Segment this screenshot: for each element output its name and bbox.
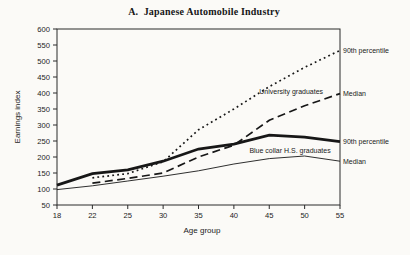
inplot-series-group-label: University graduates <box>259 88 323 96</box>
x-tick-label: 55 <box>336 211 344 220</box>
x-tick-label: 35 <box>194 211 202 220</box>
x-tick-label: 18 <box>53 211 61 220</box>
inplot-series-group-label: Blue collar H.S. graduates <box>249 147 331 155</box>
y-tick-label: 500 <box>37 57 50 66</box>
x-tick-label: 22 <box>88 211 96 220</box>
y-tick-label: 550 <box>37 41 50 50</box>
y-tick-label: 100 <box>37 185 50 194</box>
line-end-label: Median <box>343 158 366 165</box>
earnings-profile-chart: A. Japanese Automobile Industry Earnings… <box>0 0 410 255</box>
y-tick-label: 300 <box>37 121 50 130</box>
x-tick-label: 25 <box>124 211 132 220</box>
y-tick-label: 400 <box>37 89 50 98</box>
plot-area: 5010015020025030035040045050055060018222… <box>37 25 389 220</box>
y-tick-label: 450 <box>37 73 50 82</box>
y-tick-label: 200 <box>37 153 50 162</box>
chart-title: A. Japanese Automobile Industry <box>128 6 280 17</box>
x-tick-label: 30 <box>159 211 167 220</box>
line-end-label: 90th percentile <box>343 138 389 146</box>
x-tick-label: 45 <box>265 211 273 220</box>
y-tick-label: 50 <box>42 201 50 210</box>
series-line-thick <box>57 135 340 185</box>
y-axis-title: Earnings index <box>13 91 22 144</box>
x-tick-label: 50 <box>300 211 308 220</box>
y-tick-label: 150 <box>37 169 50 178</box>
line-end-label: Median <box>343 90 366 97</box>
x-tick-label: 40 <box>230 211 238 220</box>
y-tick-label: 350 <box>37 105 50 114</box>
line-end-label: 90th percentile <box>343 47 389 55</box>
y-tick-label: 600 <box>37 25 50 34</box>
x-axis-title: Age group <box>184 226 221 235</box>
y-tick-label: 250 <box>37 137 50 146</box>
series-line-dotted <box>92 50 340 177</box>
plot-border <box>57 29 340 205</box>
